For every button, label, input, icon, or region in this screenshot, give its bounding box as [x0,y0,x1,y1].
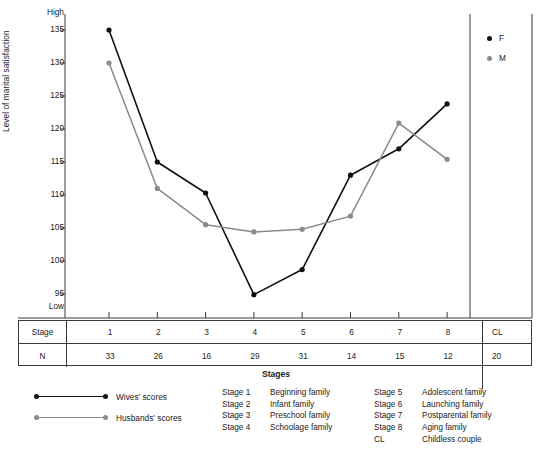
stage-definition-key: Stage 1 [222,388,270,397]
x-axis-title: Stages [0,369,552,379]
n-cell: 29 [233,344,277,367]
stage-cell: 3 [185,321,229,343]
stage-definition-row: Stage 1Beginning family [222,387,374,399]
stage-cell: 5 [281,321,325,343]
stage-definition-row: Stage 2Infant family [222,399,374,411]
female-dot-icon [487,36,492,41]
table-row-stage: Stage 12345678CL [19,321,531,344]
y-tick-label: 115 [24,156,64,166]
stage-definition-key: Stage 5 [374,388,422,397]
data-point [396,146,401,151]
stage-definition-key: Stage 4 [222,423,270,432]
n-cell: 12 [426,344,470,367]
stage-definition-key: CL [374,435,422,444]
legend-label: M [499,53,506,63]
stage-definition-value: Childless couple [422,435,526,444]
table-row-header-n: N [19,344,67,367]
series-line-legend: Wives' scoresHusbands' scores [34,386,224,428]
stage-cell: 6 [330,321,374,343]
legend-line-swatch [34,414,108,421]
y-tick-label: 125 [24,90,64,100]
y-axis-tick-labels: 95100105110115120125130135HighLow [16,0,64,320]
stage-definition-value: Schoolage family [270,423,374,432]
stage-n-table: Stage 12345678CL N 332616293114151220 [18,320,532,366]
stage-definitions: Stage 1Beginning familyStage 2Infant fam… [222,387,542,445]
n-cell: 15 [378,344,422,367]
stage-definition-value: Infant family [270,400,374,409]
chart-figure: Level of marital satisfaction 9510010511… [0,0,552,450]
plot-canvas [0,0,552,450]
n-cell: 16 [185,344,229,367]
data-point [155,186,160,191]
y-tick-label: 130 [24,57,64,67]
axes [18,14,532,318]
data-point [445,157,450,162]
n-cell: 26 [136,344,180,367]
stage-cell: 8 [426,321,470,343]
n-cell-cl: 20 [483,344,540,367]
table-row-n: N 332616293114151220 [19,344,531,367]
data-point [251,292,256,297]
series-symbol-legend: FM [487,28,537,68]
stage-definition-value: Launching family [422,400,526,409]
table-row-header-stage: Stage [19,321,67,343]
stage-definition-key: Stage 3 [222,411,270,420]
stage-definition-value: Postparental family [422,411,526,420]
y-tick-label: 120 [24,123,64,133]
stage-definition-value: Aging family [422,423,526,432]
stage-definition-row: Stage 8Aging family [374,422,526,434]
data-point [445,101,450,106]
stage-definition-row: Stage 5Adolescent family [374,387,526,399]
series-legend-item-husbands: Husbands' scores [34,407,224,428]
data-point [203,222,208,227]
n-cell: 31 [281,344,325,367]
stage-definition-row: Stage 3Preschool family [222,410,374,422]
legend-item-m: M [487,48,537,68]
stage-definition-value: Preschool family [270,411,374,420]
n-cell: 14 [330,344,374,367]
stage-definition-row: CLChildless couple [374,433,526,445]
stage-cell-cl: CL [483,321,540,343]
data-point [251,229,256,234]
data-point [203,190,208,195]
stage-definition-row: Stage 6Launching family [374,399,526,411]
stage-cell: 4 [233,321,277,343]
male-dot-icon [487,56,492,61]
series-line-m [109,63,447,232]
y-tick-label: 100 [24,255,64,265]
data-point [348,214,353,219]
data-point [300,227,305,232]
data-point [348,173,353,178]
data-point [106,27,111,32]
data-point [155,159,160,164]
stage-definitions-left: Stage 1Beginning familyStage 2Infant fam… [222,387,374,445]
stage-definition-row: Stage 7Postparental family [374,410,526,422]
y-tick-label: 95 [24,288,64,298]
legend-label: F [499,33,504,43]
series-legend-label: Wives' scores [116,392,167,402]
legend-item-f: F [487,28,537,48]
series-legend-label: Husbands' scores [116,413,182,423]
y-axis-title: Level of marital satisfaction [2,0,11,132]
series-legend-item-wives: Wives' scores [34,386,224,407]
legend-line-swatch [34,393,108,400]
stage-definition-key: Stage 8 [374,423,422,432]
data-point [300,267,305,272]
y-tick-label: 105 [24,222,64,232]
data-point [106,60,111,65]
y-tick-label: 110 [24,189,64,199]
stage-definition-key: Stage 2 [222,400,270,409]
y-tick-label: 135 [24,24,64,34]
stage-cell: 7 [378,321,422,343]
stage-definition-key: Stage 6 [374,400,422,409]
stage-cell: 2 [136,321,180,343]
y-axis-low-label: Low [20,301,64,311]
stage-definitions-right: Stage 5Adolescent familyStage 6Launching… [374,387,526,445]
n-cell: 33 [88,344,132,367]
stage-definition-key: Stage 7 [374,411,422,420]
data-point [396,120,401,125]
stage-definition-row: Stage 4Schoolage family [222,422,374,434]
y-axis-high-label: High [20,7,64,17]
stage-definition-value: Beginning family [270,388,374,397]
data-series [106,27,449,297]
